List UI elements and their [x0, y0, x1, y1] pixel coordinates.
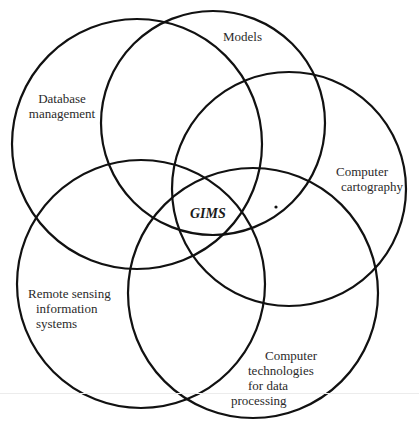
label-line: technologies: [231, 363, 317, 378]
label-line: Database: [28, 91, 96, 106]
label-line: cartography: [331, 179, 403, 194]
label-database: Database management: [28, 91, 96, 121]
label-line: Computer: [331, 164, 403, 179]
label-data-processing: Computer technologies for data processin…: [231, 348, 317, 408]
label-line: Models: [223, 29, 262, 44]
label-line: management: [28, 106, 96, 121]
label-cartography: Computer cartography: [331, 164, 403, 194]
label-line: Computer: [231, 348, 317, 363]
venn-diagram: Database management Models Computer cart…: [0, 0, 419, 424]
stray-dot: [274, 205, 277, 208]
label-line: for data: [231, 378, 317, 393]
label-line: systems: [28, 316, 111, 331]
label-models: Models: [223, 29, 262, 44]
label-center-gims: GIMS: [190, 206, 226, 222]
circle-remote-sensing: [17, 160, 265, 408]
label-line: information: [28, 301, 111, 316]
label-line: Remote sensing: [28, 286, 111, 301]
label-remote-sensing: Remote sensing information systems: [28, 286, 111, 331]
circle-database: [12, 19, 262, 269]
scan-artifact-line: [0, 393, 419, 394]
label-line: processing: [231, 393, 317, 408]
